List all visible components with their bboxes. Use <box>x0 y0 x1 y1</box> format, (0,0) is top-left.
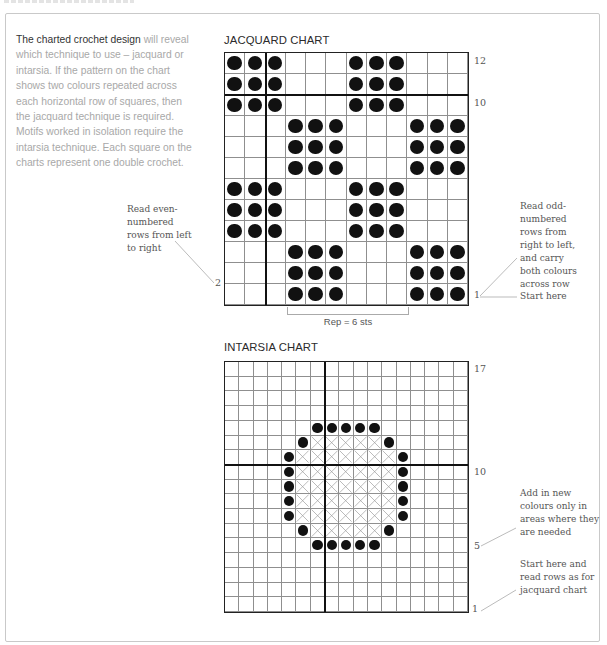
chart-cell <box>225 95 245 116</box>
jacquard-row-label-2: 2 <box>215 277 221 288</box>
chart-cell <box>239 465 253 480</box>
chart-cell <box>347 179 367 200</box>
dot-icon <box>227 182 242 197</box>
chart-cell <box>411 421 425 436</box>
chart-cell <box>454 480 468 495</box>
chart-cell <box>239 406 253 421</box>
cross-icon <box>296 465 309 478</box>
dot-icon <box>410 119 425 134</box>
chart-cell <box>282 553 296 568</box>
cross-icon <box>339 494 352 507</box>
dot-icon <box>284 496 294 506</box>
chart-cell <box>326 179 346 200</box>
note-odd-rows: Read odd-numbered rows from right to lef… <box>520 200 586 291</box>
dot-icon <box>268 98 283 113</box>
chart-cell <box>411 509 425 524</box>
chart-cell <box>225 597 239 612</box>
cross-icon <box>296 494 309 507</box>
chart-cell <box>254 465 268 480</box>
chart-cell <box>382 406 396 421</box>
chart-cell <box>254 524 268 539</box>
chart-cell <box>239 362 253 377</box>
chart-cell <box>225 568 239 583</box>
chart-cell <box>268 583 282 598</box>
chart-cell <box>411 568 425 583</box>
chart-cell <box>339 494 353 509</box>
chart-cell <box>254 436 268 451</box>
cross-icon <box>311 436 324 449</box>
chart-cell <box>245 179 265 200</box>
chart-cell <box>254 494 268 509</box>
chart-cell <box>286 74 306 95</box>
chart-cell <box>454 436 468 451</box>
cross-icon <box>368 524 381 537</box>
chart-cell <box>326 95 346 116</box>
chart-cell <box>268 450 282 465</box>
chart-cell <box>439 553 453 568</box>
dot-icon <box>284 467 294 477</box>
dot-icon <box>430 245 445 260</box>
note-start-intarsia: Start here and read rows as for jacquard… <box>520 558 600 597</box>
chart-cell <box>347 137 367 158</box>
chart-cell <box>266 53 286 74</box>
chart-cell <box>425 465 439 480</box>
cross-icon <box>325 480 338 493</box>
chart-cell <box>448 221 468 242</box>
chart-cell <box>306 158 326 179</box>
chart-cell <box>425 583 439 598</box>
chart-cell <box>266 158 286 179</box>
cross-icon <box>325 509 338 522</box>
chart-cell <box>407 200 427 221</box>
chart-cell <box>397 421 411 436</box>
dot-icon <box>398 496 408 506</box>
cross-icon <box>339 465 352 478</box>
chart-cell <box>325 406 339 421</box>
chart-cell <box>326 263 346 284</box>
chart-cell <box>254 509 268 524</box>
dot-icon <box>349 77 364 92</box>
chart-cell <box>454 450 468 465</box>
dot-icon <box>389 77 404 92</box>
cross-icon <box>339 480 352 493</box>
cross-icon <box>368 494 381 507</box>
chart-cell <box>225 158 245 179</box>
chart-cell <box>407 242 427 263</box>
chart-cell <box>354 480 368 495</box>
chart-cell <box>368 538 382 553</box>
chart-cell <box>454 597 468 612</box>
chart-cell <box>225 53 245 74</box>
chart-cell <box>397 583 411 598</box>
chart-cell <box>382 509 396 524</box>
chart-cell <box>239 450 253 465</box>
chart-cell <box>382 377 396 392</box>
chart-cell <box>245 200 265 221</box>
cross-icon <box>354 524 367 537</box>
chart-cell <box>347 74 367 95</box>
chart-cell <box>347 242 367 263</box>
chart-cell <box>382 450 396 465</box>
chart-cell <box>296 465 310 480</box>
chart-cell <box>339 465 353 480</box>
chart-cell <box>454 377 468 392</box>
dot-icon <box>312 423 322 433</box>
chart-cell <box>387 263 407 284</box>
chart-cell <box>268 538 282 553</box>
chart-cell <box>239 538 253 553</box>
dot-icon <box>430 140 445 155</box>
chart-cell <box>407 221 427 242</box>
dot-icon <box>341 423 351 433</box>
chart-cell <box>347 200 367 221</box>
chart-cell <box>339 597 353 612</box>
chart-cell <box>326 137 346 158</box>
chart-cell <box>282 421 296 436</box>
chart-cell <box>354 362 368 377</box>
chart-cell <box>368 597 382 612</box>
chart-cell <box>326 74 346 95</box>
chart-cell <box>454 421 468 436</box>
dot-icon <box>288 140 303 155</box>
dot-icon <box>369 56 384 71</box>
chart-cell <box>397 524 411 539</box>
chart-cell <box>425 568 439 583</box>
dot-icon <box>227 98 242 113</box>
chart-cell <box>245 53 265 74</box>
